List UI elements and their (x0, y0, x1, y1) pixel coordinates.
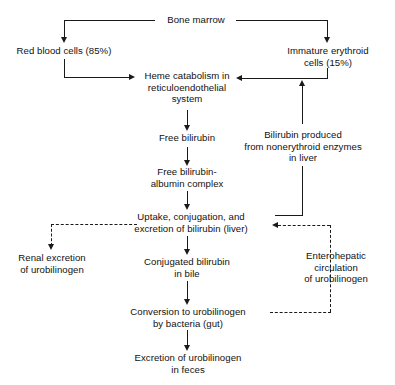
arrowhead-bone-marrow-to-immature (324, 37, 330, 43)
edge-rbc-to-heme-run (64, 77, 131, 78)
edge-uptake-to-renal-run (51, 224, 137, 225)
arrowhead-heme-to-free-bilirubin (184, 125, 190, 131)
edge-nonerythroid-to-uptake-drop (302, 166, 303, 216)
edge-nonerythroid-to-uptake-run (275, 215, 303, 216)
arrowhead-albumin-to-uptake (184, 204, 190, 210)
edge-enterohepatic-to-uptake-run (278, 225, 330, 226)
edge-bone-marrow-left-rail (64, 20, 155, 21)
node-bilirubin-nonerythroid: Bilirubin produced from nonerythroid enz… (241, 129, 365, 164)
node-conversion-urobilinogen: Conversion to urobilinogen by bacteria (… (110, 306, 266, 329)
node-excretion-feces: Excretion of urobilinogen in feces (110, 352, 266, 375)
node-free-bilirubin: Free bilirubin (137, 132, 237, 144)
arrowhead-uptake-to-conjugated (184, 249, 190, 255)
node-conjugated-bilirubin: Conjugated bilirubin in bile (125, 256, 249, 279)
node-heme-catabolism: Heme catabolism in reticuloendothelial s… (131, 70, 243, 105)
edge-nonerythroid-to-heme-riser (302, 85, 303, 124)
edge-conjugated-to-conversion (187, 281, 188, 301)
node-red-blood-cells: Red blood cells (85%) (4, 45, 124, 57)
node-immature-erythroid-cells: Immature erythroid cells (15%) (272, 45, 384, 68)
edge-uptake-to-renal-drop (51, 224, 52, 246)
node-uptake-conjugation: Uptake, conjugation, and excretion of bi… (113, 211, 269, 234)
node-enterohepatic-circulation: Enterohepatic circulation of urobilinoge… (281, 250, 391, 285)
edge-conversion-to-enterohepatic-run (270, 312, 331, 313)
edge-rbc-to-heme-drop (64, 59, 65, 77)
arrowhead-conversion-to-excretion (184, 345, 190, 351)
edge-bone-marrow-right-rail (236, 20, 328, 21)
flowchart-canvas: Bone marrow Red blood cells (85%) Immatu… (0, 0, 395, 385)
node-bone-marrow: Bone marrow (156, 14, 236, 26)
edge-immature-to-heme-run (241, 78, 328, 79)
arrowhead-bone-marrow-to-rbc (61, 37, 67, 43)
arrowhead-conjugated-to-conversion (184, 299, 190, 305)
node-renal-excretion: Renal excretion of urobilinogen (4, 252, 100, 275)
node-free-bilirubin-albumin-complex: Free bilirubin- albumin complex (130, 166, 244, 189)
arrowhead-nonerythroid-to-heme (299, 80, 305, 86)
arrowhead-uptake-to-renal (48, 244, 54, 250)
